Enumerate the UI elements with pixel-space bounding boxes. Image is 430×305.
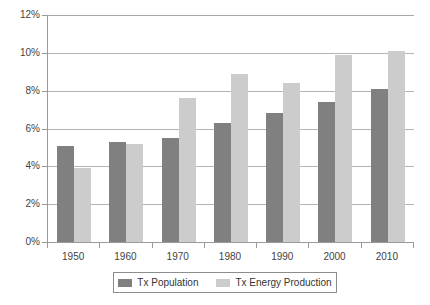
bar	[335, 55, 352, 242]
plot-area	[47, 15, 414, 243]
x-tick-mark	[47, 243, 48, 248]
y-tick-label: 4%	[0, 161, 40, 171]
bar	[179, 98, 196, 242]
bar	[57, 146, 74, 242]
chart-legend: Tx Population Tx Energy Production	[113, 272, 337, 293]
legend-entry-tx-energy-production: Tx Energy Production	[216, 277, 331, 288]
y-tick-label: 12%	[0, 10, 40, 20]
legend-swatch-icon	[118, 279, 132, 287]
y-tick-label: 0%	[0, 237, 40, 247]
legend-swatch-icon	[216, 279, 230, 287]
bar	[162, 138, 179, 242]
x-tick-label: 1980	[204, 251, 256, 263]
bar	[371, 89, 388, 242]
x-tick-label: 1990	[256, 251, 308, 263]
bar-group	[48, 15, 100, 242]
x-tick-label: 1950	[47, 251, 99, 263]
x-tick-mark	[152, 243, 153, 248]
bar-group	[309, 15, 361, 242]
y-tick-label: 10%	[0, 48, 40, 58]
bar-group	[205, 15, 257, 242]
bar	[266, 113, 283, 242]
bar	[126, 144, 143, 242]
bar-group	[362, 15, 414, 242]
legend-label: Tx Energy Production	[235, 277, 331, 288]
x-tick-mark	[413, 243, 414, 248]
x-tick-label: 1960	[99, 251, 151, 263]
bar-group	[153, 15, 205, 242]
y-tick-label: 6%	[0, 124, 40, 134]
y-tick-label: 2%	[0, 199, 40, 209]
x-tick-mark	[308, 243, 309, 248]
x-tick-mark	[256, 243, 257, 248]
legend-label: Tx Population	[137, 277, 198, 288]
x-tick-label: 2010	[361, 251, 413, 263]
bar-chart: 0%2%4%6%8%10%12% 19501960197019801990200…	[0, 0, 430, 305]
x-tick-mark	[204, 243, 205, 248]
bar	[283, 83, 300, 242]
legend-entry-tx-population: Tx Population	[118, 277, 198, 288]
x-tick-label: 2000	[308, 251, 360, 263]
x-tick-mark	[361, 243, 362, 248]
bar	[388, 51, 405, 242]
x-tick-mark	[99, 243, 100, 248]
y-tick-label: 8%	[0, 86, 40, 96]
bar	[74, 168, 91, 242]
bar-group	[257, 15, 309, 242]
bar	[109, 142, 126, 242]
bar	[318, 102, 335, 242]
x-tick-label: 1970	[152, 251, 204, 263]
bar-group	[100, 15, 152, 242]
bar	[231, 74, 248, 242]
bar	[214, 123, 231, 242]
